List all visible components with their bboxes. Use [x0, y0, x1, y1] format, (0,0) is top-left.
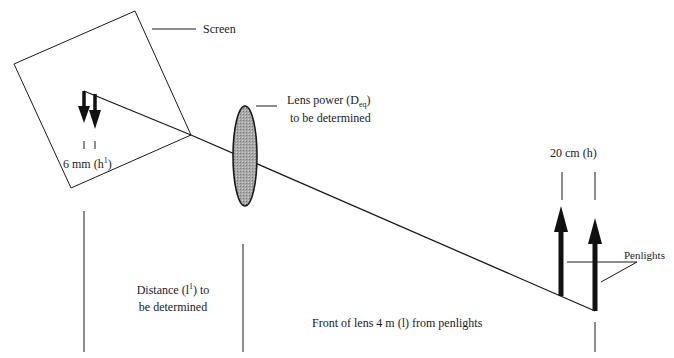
lens-power-label: Lens power (Deq) — [287, 91, 371, 109]
lens-icon — [233, 106, 257, 206]
lens-power-label-line2: to be determined — [290, 109, 371, 127]
image-distance-text: Distance (l — [137, 283, 189, 297]
image-distance-label: Distance (l1) to — [118, 281, 228, 299]
image-distance-suffix: ) to — [193, 283, 209, 297]
lens-power-text: Lens power (D — [287, 93, 359, 107]
image-arrow-icon — [89, 94, 101, 129]
image-height-suffix: ) — [108, 157, 112, 171]
object-distance-label: Front of lens 4 m (l) from penlights — [312, 314, 482, 332]
penlights-label: Penlights — [624, 246, 665, 264]
object-height-label: 20 cm (h) — [550, 144, 597, 162]
penlight-arrow-icon — [588, 218, 602, 311]
penlights-leader-line — [567, 262, 637, 282]
screen-label: Screen — [203, 20, 236, 38]
penlight-arrow-icon — [554, 206, 568, 296]
diagram-canvas — [0, 0, 674, 358]
image-arrow-icon — [78, 91, 90, 123]
lens-power-suffix: ) — [367, 93, 371, 107]
optics-diagram: Screen 6 mm (h1) Lens power (Deq) to be … — [0, 0, 674, 358]
image-height-text: 6 mm (h — [63, 157, 104, 171]
image-distance-label-line2: be determined — [118, 298, 228, 316]
image-height-label: 6 mm (h1) — [63, 155, 112, 173]
